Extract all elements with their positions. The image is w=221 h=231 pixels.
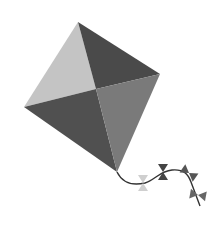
kite-illustration [0,0,221,231]
kite-svg [0,0,221,231]
kite-body [24,22,160,172]
kite-tail-string [117,170,200,206]
